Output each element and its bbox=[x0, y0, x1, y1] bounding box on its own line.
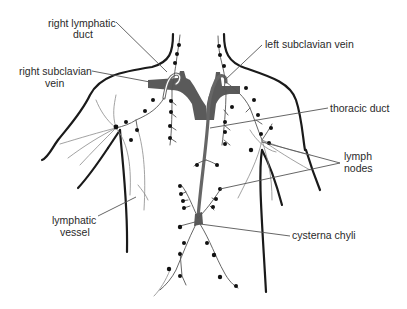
label-lymphatic-vessel-line2: vessel bbox=[60, 226, 90, 238]
label-cysterna-chyli: cysterna chyli bbox=[292, 229, 356, 241]
label-lymphatic-vessel-line1: lymphatic bbox=[52, 214, 96, 226]
lymphatic-system-diagram: right lymphatic duct right subclavian ve… bbox=[0, 0, 407, 309]
label-left-subclavian-vein: left subclavian vein bbox=[265, 38, 354, 50]
label-lymph-nodes-line1: lymph bbox=[344, 150, 372, 162]
labels: right lymphatic duct right subclavian ve… bbox=[19, 17, 390, 241]
label-lymph-nodes-line2: nodes bbox=[344, 162, 373, 174]
label-right-lymphatic-duct-line2: duct bbox=[73, 28, 93, 40]
label-right-subclavian-vein-line1: right subclavian bbox=[19, 65, 92, 77]
label-thoracic-duct: thoracic duct bbox=[330, 102, 390, 114]
lymphatic-vessels bbox=[60, 35, 310, 296]
label-right-subclavian-vein-line2: vein bbox=[45, 77, 64, 89]
right-subclavian-vein bbox=[148, 71, 206, 120]
